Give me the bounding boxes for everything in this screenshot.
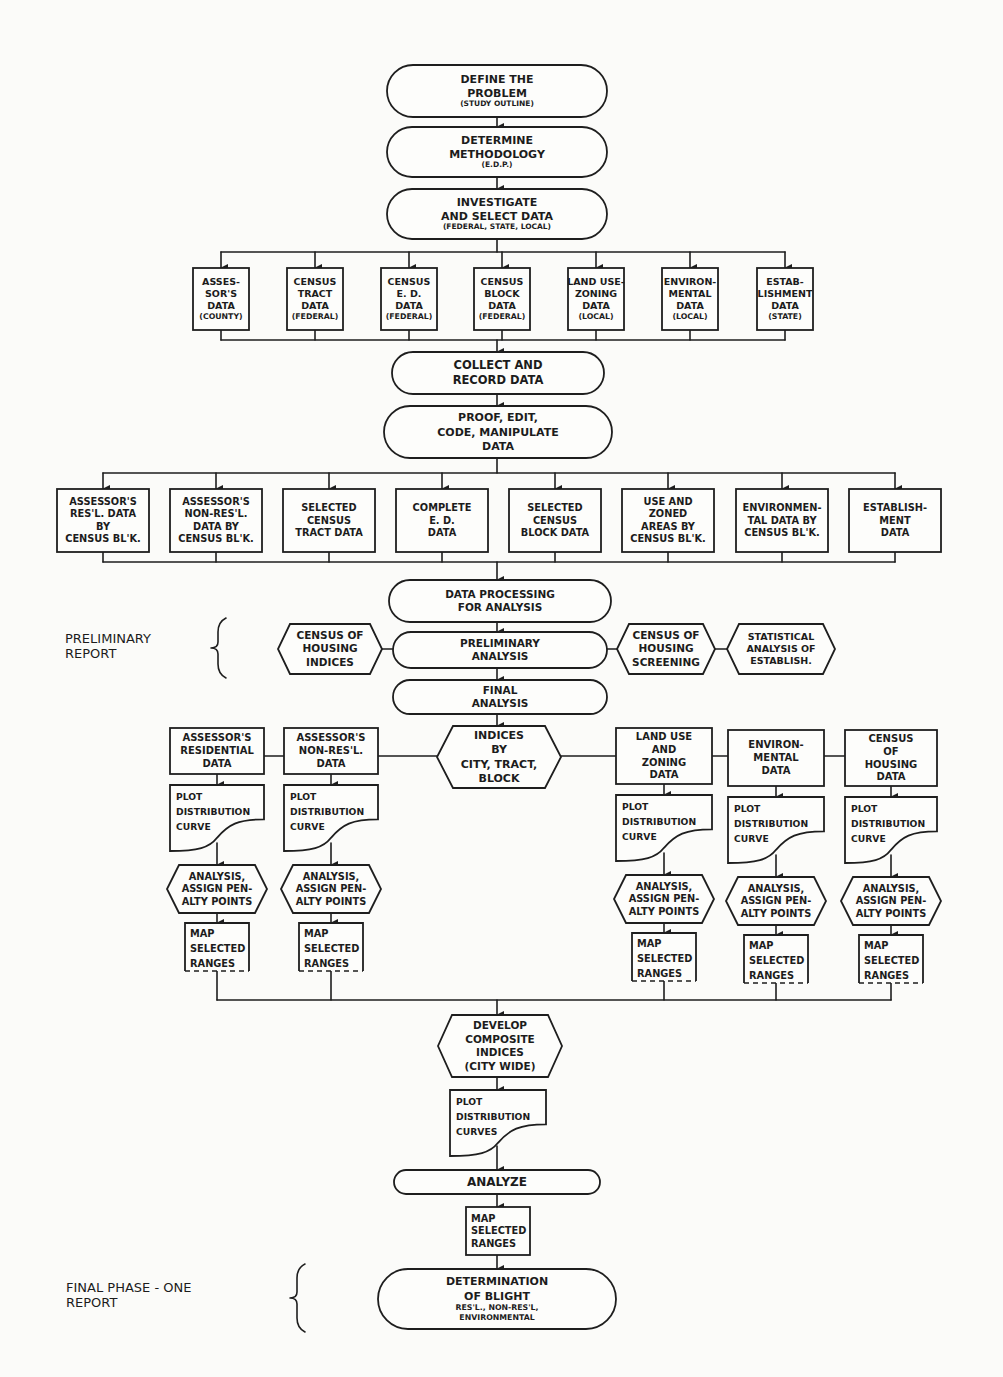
node-text-line: PLOT [456,1096,483,1107]
node-text-line: DISTRIBUTION [456,1111,530,1122]
node-text-line: ASSIGN PEN- [296,883,367,894]
node-text-line: LISHMENT [758,288,813,299]
analysis-header-2: LAND USEANDZONINGDATA [616,728,712,784]
map-selected-ranges-1: MAPSELECTEDRANGES [299,923,363,971]
node-text-line: ANALYSIS [472,650,529,662]
node-text-line: CENSUS [307,515,351,526]
node-text-line: CODE, MANIPULATE [437,426,559,439]
node-text-line: RES'L. DATA [70,508,137,519]
node-text-line: DATA [876,771,905,782]
node-text-line: RESIDENTIAL [180,745,254,756]
node-text-line: ESTAB- [766,276,804,287]
node-text-line: HOUSING [865,759,918,770]
node-text-line: CENSUS [388,276,431,287]
node-text-line: DISTRIBUTION [290,806,364,817]
node-text-line: OF [883,746,898,757]
node-text-line: CENSUS BL'K. [178,533,254,544]
node-text-line: MENT [879,515,911,526]
preliminary-brace [211,618,226,678]
node-text-line: INVESTIGATE [457,196,538,209]
data-source-4: LAND USE-ZONINGDATA(LOCAL) [567,268,625,330]
node-text-line: PLOT [176,791,203,802]
processed-data-3: COMPLETEE. D.DATA [396,489,488,552]
hex-analysis-penalty-0: ANALYSIS,ASSIGN PEN-ALTY POINTS [167,865,267,913]
analysis-header-1: ASSESSOR'SNON-RES'L.DATA [284,728,378,774]
node-text-line: RANGES [749,970,794,981]
node-text-line: AND SELECT DATA [441,210,553,223]
node-text-line: AND [652,744,676,755]
node-text-line: METHODOLOGY [449,148,546,161]
node-text-line: SELECTED [749,955,804,966]
data-source-6: ESTAB-LISHMENTDATA(STATE) [757,268,813,330]
node-text-line: PLOT [851,803,878,814]
node-text-line: BY [96,521,111,532]
node-analyze: ANALYZE [394,1170,600,1194]
node-text-line: (COUNTY) [199,312,242,321]
node-text-line: DATA [202,758,231,769]
node-text-line: BLOCK [484,288,520,299]
node-text-line: CURVE [290,821,325,832]
node-determination-of-blight: DETERMINATIONOF BLIGHTRES'L., NON-RES'L,… [378,1269,616,1329]
data-source-3: CENSUSBLOCKDATA(FEDERAL) [474,268,530,330]
node-investigate-data: INVESTIGATEAND SELECT DATA(FEDERAL, STAT… [387,189,607,239]
node-text-line: CENSUS BL'K. [65,533,141,544]
node-text-line: AREAS BY [641,521,696,532]
data-source-0: ASSES-SOR'SDATA(COUNTY) [193,268,249,330]
node-text-line: MAP [304,928,329,939]
plot-distribution-curve-3: PLOTDISTRIBUTIONCURVE [728,797,824,863]
node-text-line: DATA PROCESSING [445,588,555,600]
node-text-line: (LOCAL) [672,312,707,321]
map-selected-ranges-final: MAPSELECTEDRANGES [466,1207,530,1255]
node-text-line: INDICES [306,656,354,668]
node-text-line: DATA [482,440,514,453]
data-source-1: CENSUSTRACTDATA(FEDERAL) [287,268,343,330]
node-final-analysis: FINALANALYSIS [393,680,607,714]
node-text-line: ENVIRONMENTAL [459,1313,534,1322]
node-text-line: SELECTED [304,943,359,954]
node-text-line: OF BLIGHT [464,1290,530,1303]
node-text-line: CURVE [176,821,211,832]
node-text-line: CENSUS BL'K. [744,527,820,538]
node-text-line: MAP [749,940,774,951]
node-define-problem: DEFINE THEPROBLEM(STUDY OUTLINE) [387,65,607,117]
node-text-line: MENTAL [753,752,799,763]
node-text-line: SCREENING [632,656,700,668]
node-text-line: HOUSING [638,642,693,654]
node-text-line: ASSESSOR'S [297,732,366,743]
node-text-line: ENVIRON- [748,739,803,750]
hex-analysis-penalty-3: ANALYSIS,ASSIGN PEN-ALTY POINTS [726,877,826,925]
node-text-line: ALTY POINTS [182,896,252,907]
node-text-line: COLLECT AND [453,358,542,372]
node-text-line: DATA [676,300,704,311]
node-text-line: BY [491,743,508,756]
node-text-line: ZONING [642,757,686,768]
node-text-line: DATA [301,300,329,311]
plot-distribution-curve-4: PLOTDISTRIBUTIONCURVE [845,797,937,863]
node-text-line: E. D. [429,515,455,526]
data-source-5: ENVIRON-MENTALDATA(LOCAL) [662,268,718,330]
node-text-line: ASSIGN PEN- [856,895,927,906]
node-text-line: SELECTED [301,502,356,513]
node-text-line: DISTRIBUTION [622,816,696,827]
node-text-line: BLOCK [479,772,520,785]
node-text-line: CURVE [622,831,657,842]
node-text-line: ASSESSOR'S [183,732,252,743]
node-text-line: DEFINE THE [460,73,533,86]
final-phase-one-report-label: FINAL PHASE - ONE [66,1280,191,1295]
node-text-line: BLOCK DATA [521,527,590,538]
node-proof-edit-code: PROOF, EDIT,CODE, MANIPULATEDATA [384,406,612,458]
node-text-line: (FEDERAL) [479,312,526,321]
node-text-line: ASSESSOR'S [69,496,137,507]
node-text-line: ASSIGN PEN- [741,895,812,906]
node-text-line: ALTY POINTS [296,896,366,907]
plot-distribution-curves-final: PLOTDISTRIBUTIONCURVES [450,1090,546,1156]
node-text-line: DATA [488,300,516,311]
node-text-line: ESTABLISH- [863,502,927,513]
processed-data-4: SELECTEDCENSUSBLOCK DATA [509,489,601,552]
node-text-line: PLOT [290,791,317,802]
processed-data-5: USE ANDZONEDAREAS BYCENSUS BL'K. [622,489,714,552]
side-labels: PRELIMINARYREPORTFINAL PHASE - ONEREPORT [65,618,305,1332]
processed-data-7: ESTABLISH-MENTDATA [849,489,941,552]
node-text-line: PROOF, EDIT, [458,411,538,424]
node-text-line: DATA BY [193,521,240,532]
